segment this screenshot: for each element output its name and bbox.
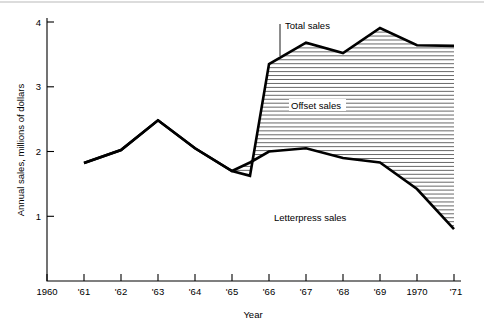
x-tick-label-61: '61 bbox=[78, 286, 90, 297]
x-tick-label-64: '64 bbox=[189, 286, 201, 297]
letterpress-sales-label: Letterpress sales bbox=[274, 212, 347, 223]
x-tick-label-65: '65 bbox=[226, 286, 238, 297]
x-axis-title: Year bbox=[243, 309, 262, 320]
y-tick-label-1: 1 bbox=[36, 211, 41, 222]
chart-figure: 4 3 2 1 1960 '61 '62 '63 '64 '65 '66 '67… bbox=[0, 0, 484, 333]
x-tick-label-1970: 1970 bbox=[406, 286, 427, 297]
annual-sales-area-chart: 4 3 2 1 1960 '61 '62 '63 '64 '65 '66 '67… bbox=[0, 0, 484, 333]
x-tick-label-62: '62 bbox=[115, 286, 127, 297]
x-tick-marks bbox=[47, 274, 454, 281]
total-sales-label: Total sales bbox=[285, 20, 330, 31]
x-tick-label-66: '66 bbox=[263, 286, 275, 297]
offset-sales-band bbox=[47, 18, 484, 282]
y-tick-label-3: 3 bbox=[36, 81, 41, 92]
x-tick-label-71: '71 bbox=[450, 286, 462, 297]
x-tick-label-67: '67 bbox=[300, 286, 312, 297]
x-tick-label-1960: 1960 bbox=[36, 286, 57, 297]
y-tick-marks bbox=[47, 22, 54, 216]
y-tick-label-2: 2 bbox=[36, 146, 41, 157]
x-tick-label-68: '68 bbox=[337, 286, 349, 297]
x-tick-labels: 1960 '61 '62 '63 '64 '65 '66 '67 '68 '69… bbox=[36, 286, 462, 297]
offset-sales-label-group: Offset sales bbox=[289, 99, 346, 111]
y-tick-label-4: 4 bbox=[36, 17, 41, 28]
x-tick-label-69: '69 bbox=[374, 286, 386, 297]
offset-sales-label: Offset sales bbox=[291, 100, 341, 111]
y-axis-title: Annual sales, millions of dollars bbox=[15, 83, 26, 216]
y-tick-labels: 4 3 2 1 bbox=[36, 17, 41, 222]
x-tick-label-63: '63 bbox=[152, 286, 164, 297]
